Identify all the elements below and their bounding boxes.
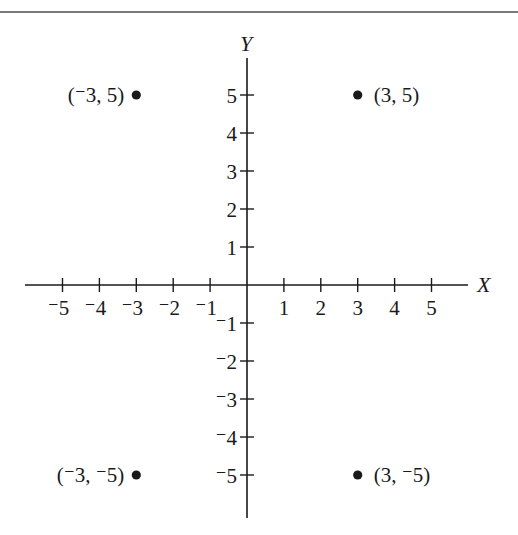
data-point-label: (3, 5) (374, 83, 420, 107)
y-ticks: 54321⁻1⁻2⁻3⁻4⁻5 (215, 84, 254, 488)
data-point-marker (353, 90, 362, 99)
x-tick-label: 1 (279, 296, 290, 320)
y-tick-label: 4 (227, 122, 238, 146)
y-tick-label: 5 (227, 84, 238, 108)
data-point-marker (132, 470, 141, 479)
y-tick-label: ⁻2 (215, 350, 237, 374)
data-point-marker (353, 470, 362, 479)
data-point-label: (3, ⁻5) (374, 463, 431, 487)
x-tick-label: ⁻4 (85, 296, 107, 320)
x-tick-label: 5 (426, 296, 437, 320)
x-tick-label: ⁻1 (195, 296, 217, 320)
data-point-marker (132, 90, 141, 99)
y-axis-label: Y (240, 31, 255, 56)
x-tick-label: 3 (352, 296, 363, 320)
y-tick-label: 2 (227, 198, 238, 222)
data-point-label: (⁻3, 5) (68, 83, 125, 107)
coordinate-plane: X Y ⁻5⁻4⁻3⁻2⁻112345 54321⁻1⁻2⁻3⁻4⁻5 (⁻3,… (0, 0, 518, 535)
y-tick-label: 1 (227, 236, 238, 260)
y-tick-label: ⁻4 (215, 426, 237, 450)
x-axis-label: X (476, 272, 492, 297)
x-tick-label: 2 (316, 296, 327, 320)
y-tick-label: ⁻5 (215, 464, 237, 488)
y-tick-label: ⁻3 (215, 388, 237, 412)
x-tick-label: ⁻3 (122, 296, 144, 320)
y-tick-label: ⁻1 (215, 312, 237, 336)
data-point-label: (⁻3, ⁻5) (57, 463, 125, 487)
x-tick-label: 4 (389, 296, 400, 320)
x-tick-label: ⁻2 (158, 296, 180, 320)
y-tick-label: 3 (227, 160, 238, 184)
x-tick-label: ⁻5 (48, 296, 70, 320)
